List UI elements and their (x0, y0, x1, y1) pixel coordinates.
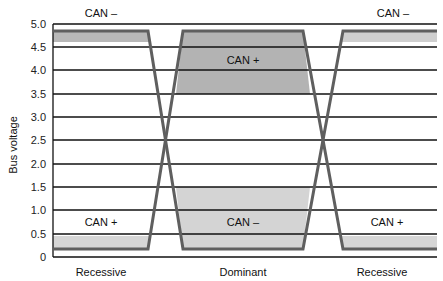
y-axis-label: Bus voltage (7, 116, 19, 173)
bus-voltage-chart: 0 0.5 1.0 1.5 2.0 2.5 3.0 3.5 4.0 4.5 5.… (0, 0, 443, 281)
band-can-plus-recessive-right (342, 236, 437, 249)
tick-1-0: 1.0 (31, 204, 46, 216)
tick-2-5: 2.5 (31, 134, 46, 146)
tick-5-0: 5.0 (31, 18, 46, 30)
tick-0-5: 0.5 (31, 228, 46, 240)
phase-label-dominant: Dominant (219, 266, 266, 278)
band-can-minus-recessive-left (53, 31, 149, 42)
phase-label-recessive-left: Recessive (76, 266, 127, 278)
tick-4-0: 4.0 (31, 64, 46, 76)
label-can-plus-dominant: CAN + (227, 54, 260, 66)
tick-3-5: 3.5 (31, 88, 46, 100)
label-can-minus-dominant: CAN – (227, 216, 260, 228)
tick-3-0: 3.0 (31, 111, 46, 123)
phase-label-recessive-right: Recessive (357, 266, 408, 278)
y-tick-labels: 0 0.5 1.0 1.5 2.0 2.5 3.0 3.5 4.0 4.5 5.… (31, 18, 46, 263)
tick-0: 0 (40, 251, 46, 263)
label-can-minus-top-right: CAN – (377, 7, 410, 19)
label-can-plus-low-left: CAN + (85, 216, 118, 228)
tick-1-5: 1.5 (31, 181, 46, 193)
tick-4-5: 4.5 (31, 41, 46, 53)
band-can-minus-recessive-right (342, 31, 437, 42)
band-can-plus-recessive-left (53, 236, 149, 249)
label-can-minus-top-left: CAN – (85, 7, 118, 19)
tick-2-0: 2.0 (31, 158, 46, 170)
label-can-plus-low-right: CAN + (371, 216, 404, 228)
